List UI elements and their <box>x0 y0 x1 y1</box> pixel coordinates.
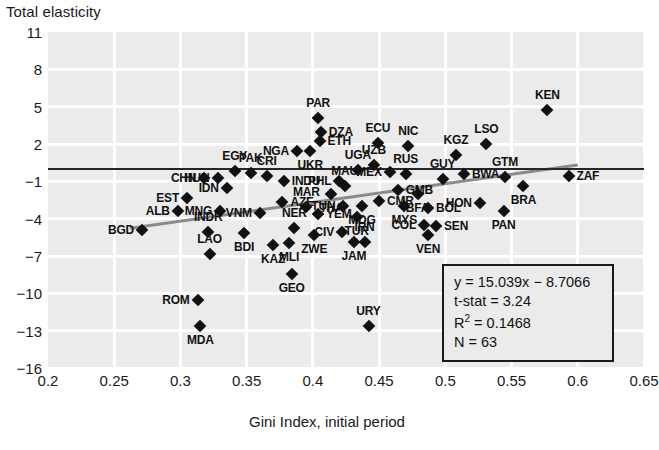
x-axis-tick-label: 0.2 <box>38 372 59 389</box>
y-axis-tick-label: −13 <box>2 322 42 339</box>
y-axis-tick-label: −10 <box>2 285 42 302</box>
x-axis-tick-label: 0.3 <box>170 372 191 389</box>
x-axis-tick-label: 0.35 <box>232 372 261 389</box>
x-axis-tick-label: 0.25 <box>100 372 129 389</box>
data-point-label: COL <box>391 218 416 232</box>
x-axis-tick-label: 0.55 <box>497 372 526 389</box>
data-point-label: URY <box>356 304 380 318</box>
data-point-label: TUN <box>311 199 335 213</box>
y-axis-tick-label: −4 <box>2 210 42 227</box>
y-axis-tick-label: 2 <box>2 136 42 153</box>
data-point-label: ZWE <box>301 242 327 256</box>
data-point-label: SEN <box>444 219 468 233</box>
data-point-label: PHL <box>308 174 331 188</box>
data-point-label: VNM <box>226 206 252 220</box>
data-point-label: INDR <box>194 210 223 224</box>
data-point-label: NGA <box>263 144 289 158</box>
data-point-label: IDN <box>199 181 219 195</box>
data-point-label: LSO <box>474 122 498 136</box>
x-axis-tick-label: 0.45 <box>365 372 394 389</box>
data-point-label: KEN <box>535 88 560 102</box>
data-point-label: GTM <box>492 155 518 169</box>
data-point-label: MEX <box>356 165 381 179</box>
data-point-label: MLI <box>279 250 299 264</box>
data-point-label: JAM <box>342 249 367 263</box>
data-point-label: GUY <box>430 157 455 171</box>
y-axis-tick-label: 8 <box>2 61 42 78</box>
t-statistic: t-stat = 3.24 <box>454 292 603 311</box>
data-point-label: UKR <box>298 158 323 172</box>
y-axis-tick-label: −1 <box>2 173 42 190</box>
y-axis-tick-label: −16 <box>2 360 42 377</box>
data-point-label: ROM <box>162 293 189 307</box>
x-axis-tick-label: 0.5 <box>435 372 456 389</box>
data-point-label: KGZ <box>444 133 469 147</box>
y-axis-tick-label: 5 <box>2 98 42 115</box>
data-point-label: ETH <box>328 134 351 148</box>
data-point-label: LAO <box>197 232 222 246</box>
r-squared-prefix: R <box>454 314 464 330</box>
x-axis-tick-label: 0.4 <box>302 372 323 389</box>
data-point-label: IRN <box>354 220 374 234</box>
data-point-label: HON <box>446 196 472 210</box>
statistics-box: y = 15.039x − 8.7066 t-stat = 3.24 R2 = … <box>442 264 614 362</box>
data-point-label: RUS <box>393 152 418 166</box>
data-point-label: ECU <box>365 121 390 135</box>
y-axis-title: Total elasticity <box>6 3 101 20</box>
data-point-label: BRA <box>511 193 536 207</box>
sample-size: N = 63 <box>454 333 603 352</box>
x-axis-tick-label: 0.6 <box>567 372 588 389</box>
r-squared: R2 = 0.1468 <box>454 312 603 333</box>
data-point-label: ZAF <box>577 169 600 183</box>
data-point-label: PAN <box>492 218 516 232</box>
regression-equation: y = 15.039x − 8.7066 <box>454 273 603 292</box>
y-axis-tick-label: −7 <box>2 248 42 265</box>
data-point-label: GEO <box>279 281 305 295</box>
data-point-label: NIC <box>398 124 418 138</box>
data-point-label: VEN <box>416 242 440 256</box>
data-point-label: BGD <box>108 223 134 237</box>
r-squared-value: = 0.1468 <box>470 314 531 330</box>
data-point-label: CIV <box>315 225 334 239</box>
data-point-label: MDA <box>187 333 214 347</box>
data-point-label: PAR <box>306 96 330 110</box>
data-point-label: EST <box>156 191 179 205</box>
x-axis-title: Gini Index, initial period <box>0 413 654 430</box>
data-point-label: ALB <box>146 204 170 218</box>
data-point-label: BDI <box>234 240 254 254</box>
y-axis-tick-label: 11 <box>2 24 42 41</box>
x-axis-tick-label: 0.65 <box>629 372 658 389</box>
